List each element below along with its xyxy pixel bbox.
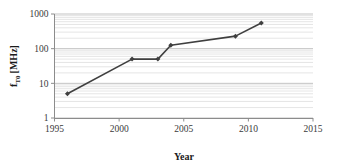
x-tick-label: 1995 xyxy=(45,124,64,134)
x-tick-label: 2000 xyxy=(110,124,129,134)
x-axis-title: Year xyxy=(174,151,195,162)
x-tick-label: 2010 xyxy=(239,124,258,134)
chart-figure: 1101001000 19952000200520102015 Year fT0… xyxy=(0,0,339,167)
y-axis-title-unit: [MHz] xyxy=(8,45,19,73)
line-chart: 1101001000 19952000200520102015 Year fT0… xyxy=(0,0,339,167)
x-tick-label: 2005 xyxy=(174,124,193,134)
y-tick-label: 10 xyxy=(39,79,49,89)
x-tick-label: 2015 xyxy=(304,124,323,134)
y-tick-label: 100 xyxy=(34,44,49,54)
x-axis-title-text: Year xyxy=(174,151,195,162)
y-axis-title-subscript: T0 xyxy=(14,75,22,84)
y-tick-label: 1000 xyxy=(30,9,49,19)
y-tick-label: 1 xyxy=(44,113,49,123)
